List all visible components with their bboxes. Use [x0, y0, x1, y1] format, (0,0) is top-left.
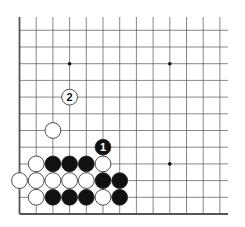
black-stone — [78, 189, 94, 205]
white-stone — [95, 156, 111, 172]
star-point — [168, 162, 172, 166]
black-stone — [45, 156, 61, 172]
white-stone — [45, 123, 61, 139]
black-stone — [62, 156, 78, 172]
white-stone — [78, 173, 94, 189]
black-stone — [45, 189, 61, 205]
move-number-label: 2 — [67, 91, 73, 103]
black-stone — [78, 156, 94, 172]
white-stone — [28, 189, 44, 205]
white-stone — [28, 173, 44, 189]
black-stone — [95, 173, 111, 189]
white-stone — [95, 189, 111, 205]
star-point — [68, 62, 72, 66]
white-stone: 2 — [62, 89, 78, 105]
go-board: 12 — [0, 0, 245, 227]
white-stone — [28, 156, 44, 172]
move-number-label: 1 — [100, 141, 106, 153]
white-stone — [45, 173, 61, 189]
white-stone — [62, 173, 78, 189]
black-stone — [112, 173, 128, 189]
star-point — [168, 62, 172, 66]
white-stone — [12, 173, 28, 189]
black-stone: 1 — [95, 139, 111, 155]
black-stone — [112, 189, 128, 205]
black-stone — [62, 189, 78, 205]
